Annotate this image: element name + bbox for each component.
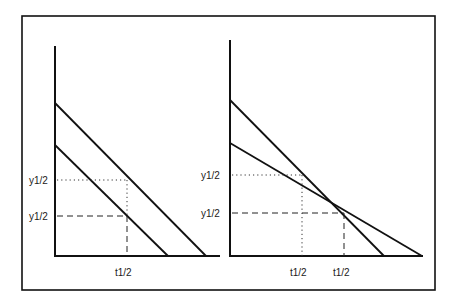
right-x-label-1: t1/2 xyxy=(290,267,307,278)
left-x-label: t1/2 xyxy=(115,267,132,278)
half-life-diagram: y1/2 y1/2 t1/2 y1/2 y1/2 t1/2 t1/2 xyxy=(0,0,455,304)
right-steep-line xyxy=(230,100,384,256)
figure-frame xyxy=(22,16,435,290)
left-upper-line xyxy=(55,103,206,256)
right-y-label-lower: y1/2 xyxy=(201,208,220,219)
left-panel: y1/2 y1/2 t1/2 xyxy=(29,46,220,278)
right-y-label-upper: y1/2 xyxy=(201,170,220,181)
right-x-label-2: t1/2 xyxy=(333,267,350,278)
left-y-label-lower: y1/2 xyxy=(29,211,48,222)
right-shallow-line xyxy=(230,143,422,256)
left-y-label-upper: y1/2 xyxy=(29,175,48,186)
right-panel: y1/2 y1/2 t1/2 t1/2 xyxy=(201,40,423,278)
